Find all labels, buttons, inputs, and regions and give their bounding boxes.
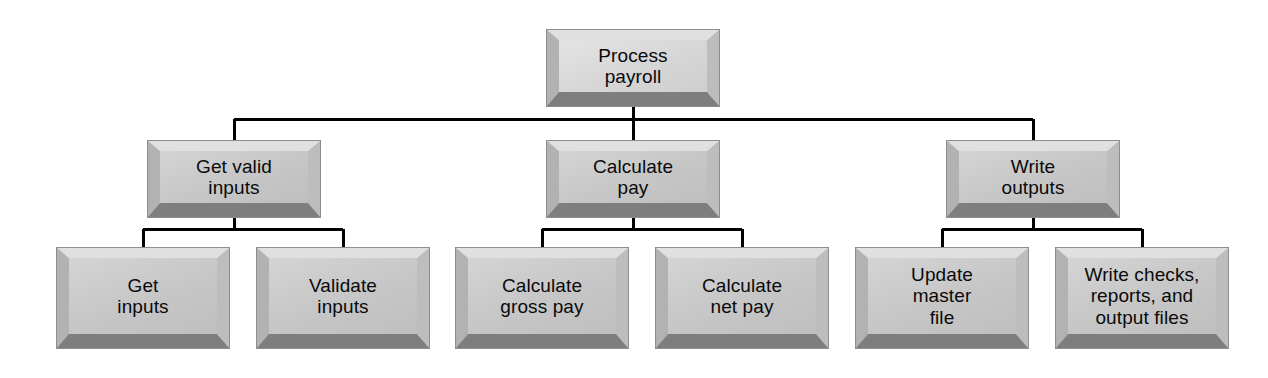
structure-chart-canvas: Process payrollGet valid inputsCalculate… xyxy=(0,0,1268,378)
node-label: Calculate gross pay xyxy=(498,275,585,318)
node-label: Update master file xyxy=(909,264,975,328)
node-update-master-file[interactable]: Update master file xyxy=(856,248,1028,348)
node-get-inputs[interactable]: Get inputs xyxy=(57,248,229,348)
node-validate-inputs[interactable]: Validate inputs xyxy=(257,248,429,348)
node-label: Calculate net pay xyxy=(700,275,784,318)
node-label: Get inputs xyxy=(115,275,170,318)
node-label: Validate inputs xyxy=(307,275,379,318)
node-label: Write checks, reports, and output files xyxy=(1083,264,1202,328)
node-label: Get valid inputs xyxy=(194,156,274,199)
node-calculate-net-pay[interactable]: Calculate net pay xyxy=(656,248,828,348)
node-write-checks-reports-output-files[interactable]: Write checks, reports, and output files xyxy=(1056,248,1228,348)
node-process-payroll[interactable]: Process payroll xyxy=(547,30,719,106)
node-get-valid-inputs[interactable]: Get valid inputs xyxy=(148,141,320,217)
node-label: Write outputs xyxy=(999,156,1066,199)
node-label: Process payroll xyxy=(596,45,669,88)
node-calculate-gross-pay[interactable]: Calculate gross pay xyxy=(456,248,628,348)
node-write-outputs[interactable]: Write outputs xyxy=(947,141,1119,217)
node-calculate-pay[interactable]: Calculate pay xyxy=(547,141,719,217)
node-label: Calculate pay xyxy=(591,156,675,199)
